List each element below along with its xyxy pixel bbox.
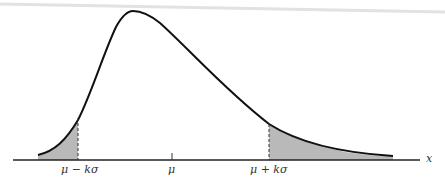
left-bound-label: μ − kσ <box>61 163 99 176</box>
chart-figure <box>0 0 445 187</box>
mean-label: μ <box>168 163 175 176</box>
density-curve <box>38 11 393 156</box>
x-axis-label: x <box>426 152 432 165</box>
top-rule <box>0 4 445 12</box>
right-bound-label: μ + kσ <box>250 163 288 176</box>
